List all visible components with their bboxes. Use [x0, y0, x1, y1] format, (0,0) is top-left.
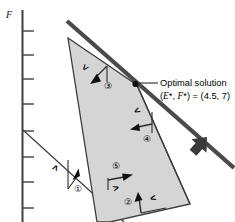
- optimal-solution-point: [132, 81, 138, 87]
- y-axis-ticks: [23, 31, 35, 208]
- annot-value: ) = (4.5, 7): [187, 91, 230, 101]
- lp-graph-svg: F Optimal solution (E*, F*) = (4.5, 7): [0, 0, 235, 222]
- lp-graph-figure: F Optimal solution (E*, F*) = (4.5, 7): [0, 0, 235, 222]
- y-axis-group: F: [5, 9, 34, 222]
- constraint-1-label: ①: [74, 184, 82, 194]
- constraint-5-label: ⑤: [112, 161, 120, 171]
- y-axis-label: F: [5, 9, 13, 20]
- optimal-solution-label-line2: (E*, F*) = (4.5, 7): [160, 91, 230, 101]
- optimal-solution-label-line1: Optimal solution: [160, 78, 227, 88]
- optimal-solution-annotation: Optimal solution (E*, F*) = (4.5, 7): [160, 78, 230, 101]
- constraint-4-label: ④: [143, 134, 151, 144]
- constraint-1-group: > ①: [49, 160, 82, 194]
- constraint-3-label: ③: [104, 81, 112, 91]
- constraint-2-label: ②: [124, 197, 132, 207]
- optimal-solution-marker-group: [132, 81, 158, 87]
